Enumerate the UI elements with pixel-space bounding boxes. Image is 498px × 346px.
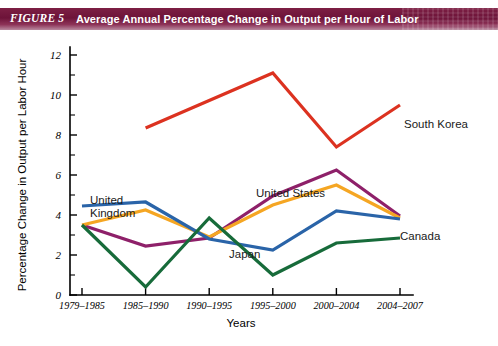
series-label-canada: Canada (400, 230, 441, 242)
y-axis-tick-label: 6 (56, 169, 62, 181)
series-label-japan: Japan (229, 248, 260, 260)
x-axis-tick-label: 2000–2004 (313, 300, 359, 311)
figure-title-text: Average Annual Percentage Change in Outp… (76, 13, 419, 25)
figure-title-bar: FIGURE 5 Average Annual Percentage Chang… (0, 8, 498, 30)
y-axis-tick-label: 8 (56, 129, 62, 141)
x-axis-tick-label: 1995–2000 (250, 300, 296, 311)
y-axis-tick-label: 2 (56, 249, 62, 261)
y-axis-title: Percentage Change in Output per Labor Ho… (16, 58, 28, 291)
y-axis-tick-label: 10 (50, 89, 62, 101)
x-axis-tick-label: 1985–1990 (123, 300, 169, 311)
line-chart-svg: 0246810121979–19851985–19901990–19951995… (0, 30, 498, 346)
x-axis-tick-label: 1979–1985 (59, 300, 105, 311)
x-axis-title: Years (227, 317, 256, 329)
series-label-south-korea: South Korea (404, 118, 469, 130)
figure-container: FIGURE 5 Average Annual Percentage Chang… (0, 0, 498, 346)
y-axis-tick-label: 4 (56, 209, 62, 221)
series-label-united-states: United States (256, 187, 325, 199)
chart-series-labels: South KoreaUnited StatesJapanUnitedKingd… (90, 118, 469, 260)
series-line-south-korea (146, 73, 400, 147)
figure-number-label: FIGURE 5 (10, 12, 64, 24)
x-axis-tick-label: 1990–1995 (186, 300, 232, 311)
y-axis-tick-label: 12 (50, 49, 62, 61)
x-axis-tick-label: 2004–2007 (377, 300, 424, 311)
series-label-united-kingdom: UnitedKingdom (90, 194, 135, 219)
chart-axes: 0246810121979–19851985–19901990–19951995… (50, 47, 424, 311)
chart-plot-area: 0246810121979–19851985–19901990–19951995… (0, 30, 498, 346)
